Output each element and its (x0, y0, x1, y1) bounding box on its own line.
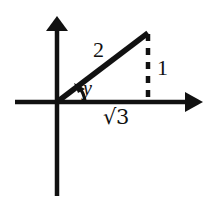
figure-canvas (0, 0, 221, 204)
hypotenuse-length-label: 2 (93, 39, 104, 61)
opposite-side-length-label: 1 (157, 57, 168, 79)
adjacent-side-length-label: √3 (103, 107, 129, 128)
horizontal-axis-arrowhead-icon (185, 92, 203, 112)
trigonometry-figure: 2 1 √3 y (0, 0, 221, 204)
angle-label: y (83, 78, 92, 98)
vertical-axis-arrowhead-icon (46, 16, 68, 31)
